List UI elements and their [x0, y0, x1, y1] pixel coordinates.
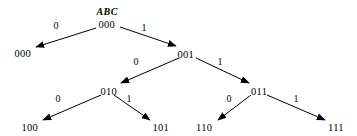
variable-header-label: ABC: [97, 7, 118, 17]
edge-label-e-001-1: 1: [218, 57, 223, 67]
tree-edge-e-root-0: [36, 28, 96, 47]
tree-node-root: 000: [99, 20, 116, 31]
tree-node-n011: 011: [251, 87, 267, 98]
edge-label-e-001-0: 0: [134, 57, 139, 67]
tree-edge-e-root-1: [120, 27, 176, 46]
tree-edge-e-001-1: [196, 58, 249, 83]
tree-node-n001: 001: [178, 50, 195, 61]
edge-label-e-root-1: 1: [142, 23, 147, 33]
edge-label-e-010-1: 1: [127, 94, 132, 104]
edge-lines: [36, 27, 325, 120]
tree-leaf-l110: 110: [196, 123, 212, 134]
edge-label-e-011-1: 1: [294, 94, 299, 104]
edge-label-e-011-0: 0: [227, 94, 232, 104]
tree-leaf-l000: 000: [15, 49, 32, 60]
tree-leaf-l111: 111: [328, 123, 344, 134]
tree-edge-e-010-0: [43, 95, 101, 120]
edge-label-e-root-0: 0: [54, 21, 59, 31]
tree-leaf-l100: 100: [22, 123, 39, 134]
tree-edge-e-001-0: [121, 58, 179, 83]
tree-edge-e-010-1: [114, 95, 150, 120]
edge-label-e-010-0: 0: [56, 94, 61, 104]
tree-node-n010: 010: [101, 87, 118, 98]
tree-leaf-l101: 101: [153, 123, 170, 134]
decision-tree-diagram: ABC00000101001100010010111011101010101: [0, 0, 357, 136]
tree-edge-e-011-0: [218, 95, 251, 120]
